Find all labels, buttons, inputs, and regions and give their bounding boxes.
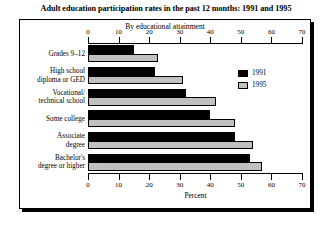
- x-tick-label-bottom: 40: [199, 181, 221, 189]
- x-tick-label-bottom: 30: [169, 181, 191, 189]
- x-tick-bottom: [88, 174, 89, 180]
- category-label-5: Bachelor'sdegree or higher: [22, 154, 85, 170]
- category-label-line: Vocational/: [22, 89, 85, 97]
- category-label-line: High school: [22, 67, 85, 75]
- legend-item-1991: 1991: [238, 68, 266, 78]
- bar-1995-3: [88, 119, 235, 128]
- bar-1991-2: [88, 89, 186, 98]
- x-tick-bottom: [302, 174, 303, 180]
- category-label-line: Bachelor's: [22, 154, 85, 162]
- x-tick-bottom: [271, 174, 272, 180]
- category-label-line: degree: [22, 141, 85, 149]
- x-tick-bottom: [241, 174, 242, 180]
- legend-label-1995: 1995: [252, 81, 266, 89]
- category-label-line: Associate: [22, 132, 85, 140]
- chart-legend: 1991 1995: [238, 68, 266, 92]
- x-tick-label-bottom: 10: [108, 181, 130, 189]
- frame-shadow-bottom: [22, 209, 314, 212]
- x-tick-bottom: [180, 174, 181, 180]
- bar-1991-1: [88, 67, 155, 76]
- bar-1995-5: [88, 162, 262, 171]
- x-tick-bottom: [149, 174, 150, 180]
- bar-1991-0: [88, 45, 134, 54]
- category-label-line: Some college: [22, 115, 85, 123]
- category-label-line: diploma or GED: [22, 76, 85, 84]
- category-axis-labels: Grades 9–12High schooldiploma or GEDVoca…: [22, 43, 85, 173]
- x-tick-bottom: [119, 174, 120, 180]
- x-tick-label-bottom: 70: [291, 181, 313, 189]
- x-tick-bottom: [210, 174, 211, 180]
- bar-1991-5: [88, 154, 250, 163]
- legend-swatch-1991-icon: [238, 70, 248, 77]
- bar-1995-4: [88, 141, 253, 150]
- x-tick-label-top: 60: [260, 28, 282, 36]
- legend-swatch-1995-icon: [238, 82, 248, 89]
- bar-1995-0: [88, 54, 158, 63]
- category-label-1: High schooldiploma or GED: [22, 67, 85, 83]
- x-tick-label-bottom: 60: [260, 181, 282, 189]
- category-label-4: Associatedegree: [22, 132, 85, 148]
- x-tick-top: [302, 37, 303, 43]
- plot-area: [88, 43, 302, 173]
- x-tick-label-top: 30: [169, 28, 191, 36]
- legend-label-1991: 1991: [252, 69, 266, 77]
- bar-1991-3: [88, 110, 210, 119]
- x-tick-label-top: 10: [108, 28, 130, 36]
- x-tick-label-top: 40: [199, 28, 221, 36]
- bar-1995-1: [88, 76, 183, 85]
- category-label-line: Grades 9–12: [22, 50, 85, 58]
- bar-1995-2: [88, 97, 216, 106]
- category-label-3: Some college: [22, 115, 85, 123]
- x-tick-label-top: 20: [138, 28, 160, 36]
- x-tick-label-bottom: 0: [77, 181, 99, 189]
- x-tick-label-top: 0: [77, 28, 99, 36]
- chart-screenshot: Adult education participation rates in t…: [0, 0, 332, 225]
- chart-title: Adult education participation rates in t…: [0, 4, 332, 14]
- category-label-line: technical school: [22, 97, 85, 105]
- category-label-2: Vocational/technical school: [22, 89, 85, 105]
- x-tick-label-top: 50: [230, 28, 252, 36]
- category-label-line: degree or higher: [22, 162, 85, 170]
- x-tick-label-bottom: 20: [138, 181, 160, 189]
- legend-item-1995: 1995: [238, 80, 266, 90]
- category-label-0: Grades 9–12: [22, 50, 85, 58]
- bar-1991-4: [88, 132, 235, 141]
- x-axis-title: Percent: [88, 191, 303, 200]
- x-tick-label-bottom: 50: [230, 181, 252, 189]
- x-tick-label-top: 70: [291, 28, 313, 36]
